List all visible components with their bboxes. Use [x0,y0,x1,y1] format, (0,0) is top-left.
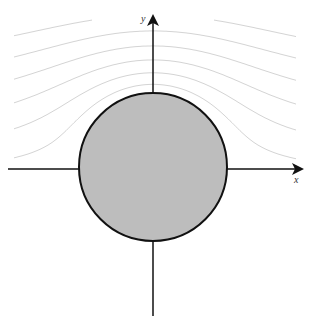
y-axis-label: y [140,13,146,24]
cylinder-cross-section [79,93,227,241]
flow-around-cylinder-diagram: x y [0,0,313,327]
x-axis-label: x [293,174,299,185]
streamline [14,31,296,58]
streamline [14,46,296,80]
streamline [14,20,296,36]
